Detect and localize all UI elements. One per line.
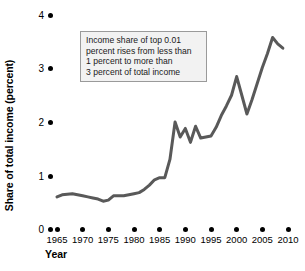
callout-line-3: 1 percent to more than bbox=[86, 56, 201, 67]
callout-line-1: Income share of top 0.01 bbox=[86, 35, 201, 46]
annotation-callout: Income share of top 0.01 percent rises f… bbox=[80, 31, 207, 82]
callout-line-4: 3 percent of total income bbox=[86, 67, 201, 78]
x-axis-title: Year bbox=[45, 248, 67, 260]
chart-figure: Share of total income (percent) 4 3 2 1 … bbox=[0, 0, 305, 271]
callout-line-2: percent rises from less than bbox=[86, 46, 201, 57]
